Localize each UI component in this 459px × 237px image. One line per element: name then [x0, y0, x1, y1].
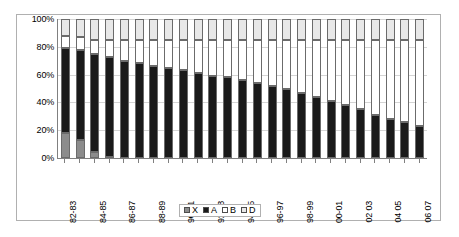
- bar-segment-x: [61, 133, 70, 158]
- bar: [297, 19, 306, 158]
- bar-segment-d: [400, 19, 409, 40]
- bar: [135, 19, 144, 158]
- bar-segment-d: [238, 19, 247, 40]
- y-tick-label: 40%: [37, 98, 54, 107]
- bar: [105, 19, 114, 158]
- bar-segment-a: [194, 73, 203, 158]
- bar-segment-a: [282, 89, 291, 159]
- bar-segment-b: [179, 40, 188, 71]
- bar-segment-d: [90, 19, 99, 40]
- bar: [268, 19, 277, 158]
- bar-segment-a: [400, 122, 409, 158]
- y-tick-label: 0%: [41, 154, 54, 163]
- bar: [356, 19, 365, 158]
- bar-segment-a: [90, 54, 99, 153]
- bar-segment-d: [253, 19, 262, 40]
- y-axis: 0%20%40%60%80%100%: [17, 15, 57, 161]
- legend-label: D: [249, 206, 256, 215]
- x-tick-label: 82-83: [68, 201, 78, 223]
- bar-segment-a: [164, 68, 173, 158]
- bar-segment-b: [371, 40, 380, 115]
- bar-segment-b: [76, 37, 85, 50]
- bar-segment-a: [341, 105, 350, 158]
- bar-segment-a: [371, 115, 380, 158]
- bar-segment-a: [135, 63, 144, 158]
- x-tick-label: 06 07: [423, 201, 433, 223]
- plot-area: [57, 19, 427, 159]
- x-tick-label: 04 05: [393, 201, 403, 223]
- bar-segment-d: [386, 19, 395, 40]
- bar-segment-a: [105, 57, 114, 157]
- bar-segment-b: [208, 40, 217, 76]
- bar: [223, 19, 232, 158]
- bar-segment-d: [356, 19, 365, 40]
- bar: [327, 19, 336, 158]
- bar-segment-a: [268, 86, 277, 158]
- bar-segment-d: [194, 19, 203, 40]
- bar-segment-b: [341, 40, 350, 105]
- bar-segment-a: [208, 76, 217, 158]
- bar: [76, 19, 85, 158]
- bar: [194, 19, 203, 158]
- bar-segment-b: [194, 40, 203, 73]
- bar-segment-a: [327, 101, 336, 158]
- x-tick-label: 88-89: [157, 201, 167, 223]
- legend-swatch-icon: [184, 207, 190, 213]
- bar-segment-d: [282, 19, 291, 40]
- bar-segment-a: [61, 48, 70, 133]
- bar-segment-a: [312, 97, 321, 158]
- bar: [312, 19, 321, 158]
- bar-segment-d: [312, 19, 321, 40]
- bar-segment-x: [90, 152, 99, 158]
- chart-frame: 0%20%40%60%80%100% 82-8384-8586-8788-899…: [16, 14, 441, 221]
- legend-label: X: [192, 206, 198, 215]
- chart-legend: XABD: [179, 204, 261, 217]
- bar: [386, 19, 395, 158]
- bar-segment-d: [223, 19, 232, 40]
- bar: [415, 19, 424, 158]
- y-tick-label: 80%: [37, 42, 54, 51]
- bar: [253, 19, 262, 158]
- bar-segment-b: [135, 40, 144, 64]
- x-tick-label: 96-97: [275, 201, 285, 223]
- bar-segment-d: [208, 19, 217, 40]
- bar-segment-d: [135, 19, 144, 40]
- bar-segment-d: [105, 19, 114, 40]
- bar-segment-b: [90, 40, 99, 54]
- bar-segment-b: [268, 40, 277, 86]
- bar-segment-d: [120, 19, 129, 40]
- bar-segment-b: [356, 40, 365, 110]
- bar-segment-x: [76, 140, 85, 158]
- bar-segment-b: [120, 40, 129, 61]
- bar-segment-d: [371, 19, 380, 40]
- bar-segment-b: [149, 40, 158, 66]
- bar-segment-b: [238, 40, 247, 80]
- bar-segment-d: [327, 19, 336, 40]
- legend-item: X: [184, 206, 198, 215]
- bar-segment-a: [238, 80, 247, 158]
- bar-segment-d: [268, 19, 277, 40]
- bar-segment-b: [164, 40, 173, 68]
- bar: [179, 19, 188, 158]
- y-tick-label: 100%: [32, 15, 54, 24]
- y-tick-label: 60%: [37, 70, 54, 79]
- bar-segment-b: [386, 40, 395, 119]
- bar-segment-d: [297, 19, 306, 40]
- bar-segment-b: [253, 40, 262, 83]
- bar-segment-d: [164, 19, 173, 40]
- bar: [149, 19, 158, 158]
- bar-segment-d: [341, 19, 350, 40]
- legend-label: B: [230, 206, 236, 215]
- bar-segment-d: [415, 19, 424, 40]
- bar-segment-b: [415, 40, 424, 126]
- bar-segment-a: [223, 77, 232, 158]
- bar-segment-a: [297, 93, 306, 158]
- bar-segment-a: [120, 61, 129, 158]
- x-tick-label: 86-87: [127, 201, 137, 223]
- chart-plot-wrapper: 0%20%40%60%80%100% 82-8384-8586-8788-899…: [17, 15, 442, 222]
- legend-item: D: [241, 206, 256, 215]
- bar-segment-b: [223, 40, 232, 78]
- bar: [282, 19, 291, 158]
- legend-label: A: [211, 206, 217, 215]
- bar-segment-b: [327, 40, 336, 101]
